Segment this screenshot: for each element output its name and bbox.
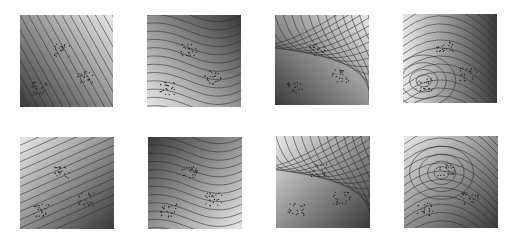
contour-panel-7	[276, 136, 370, 228]
contour-panel-3	[275, 15, 369, 105]
contour-panel-1	[20, 15, 113, 107]
contour-panel-6	[148, 137, 242, 229]
contour-panel-4	[403, 14, 497, 103]
contour-panel-8	[404, 136, 498, 228]
contour-panel-5	[20, 137, 114, 229]
contour-panel-2	[147, 15, 241, 107]
